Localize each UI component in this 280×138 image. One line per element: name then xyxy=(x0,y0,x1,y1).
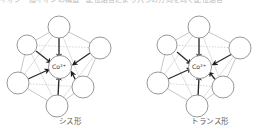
figure-cis: Co3+ シス形 xyxy=(0,7,140,138)
octahedral-diagram-trans: Co3+ xyxy=(140,7,280,119)
ligand-top xyxy=(48,16,70,38)
figure-trans: Co3+ トランス形 xyxy=(140,7,280,138)
ligand-lower-right xyxy=(72,76,94,98)
ligand-right xyxy=(229,37,251,59)
ligand-upper-left xyxy=(17,35,37,55)
ligand-bottom xyxy=(186,95,208,117)
ligand-upper-left xyxy=(157,35,177,55)
caption-cis: シス形 xyxy=(0,115,140,126)
ligand-right xyxy=(89,37,111,59)
ligand-lower-left xyxy=(7,72,29,94)
ligand-top xyxy=(188,16,210,38)
clipped-header-text: イオン 錯イオンの構造 配位結合により六つの方向を向く配位結合 xyxy=(0,0,280,7)
ligand-bottom xyxy=(46,95,68,117)
ligand-lower-left xyxy=(147,72,169,94)
caption-trans: トランス形 xyxy=(140,115,280,126)
octahedral-diagram-cis: Co3+ xyxy=(0,7,140,119)
ligand-lower-right xyxy=(212,76,234,98)
figure-canvas: イオン 錯イオンの構造 配位結合により六つの方向を向く配位結合 xyxy=(0,0,280,138)
